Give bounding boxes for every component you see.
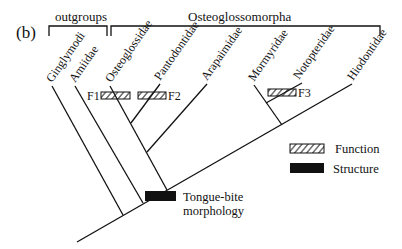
legend: Function Structure [290, 142, 380, 176]
branch-osteoglossidae [110, 86, 167, 190]
branch-amiidae [75, 86, 143, 203]
taxon-notopteridae: Notopteridae [290, 22, 337, 81]
f3-function-box [268, 89, 296, 96]
f2-function-box [138, 92, 166, 99]
panel-label: (b) [16, 23, 36, 42]
tongue-bite-label-line1: Tongue-bite [183, 190, 244, 204]
cladogram: (b) outgroups Osteoglossomorpha Ginglymo… [0, 0, 402, 249]
f2-label: F2 [168, 89, 181, 103]
tongue-bite-label-line2: morphology [183, 204, 245, 218]
tree-branches [52, 83, 352, 242]
structure-marker [145, 191, 176, 201]
branch-pantodontidae [131, 84, 160, 123]
taxon-pantodontidae: Pantodontidae [151, 18, 202, 82]
osteoglossomorpha-label: Osteoglossomorpha [188, 9, 292, 24]
taxon-mormyridae: Mormyridae [245, 27, 291, 84]
legend-structure-swatch [290, 163, 324, 173]
taxon-labels: Ginglymodi Amiidae Osteoglossidae Pantod… [43, 17, 389, 85]
legend-function-label: Function [335, 142, 380, 156]
legend-function-swatch [290, 144, 324, 153]
f3-label: F3 [298, 86, 311, 100]
taxon-hiodontidae: Hiodontidae [344, 26, 389, 83]
taxon-arapaimidae: Arapaimidae [198, 24, 245, 83]
f1-label: F1 [87, 89, 100, 103]
f1-function-box [101, 92, 130, 99]
taxon-osteoglossidae: Osteoglossidae [102, 17, 155, 85]
legend-structure-label: Structure [333, 162, 379, 176]
outgroups-label: outgroups [55, 9, 107, 24]
